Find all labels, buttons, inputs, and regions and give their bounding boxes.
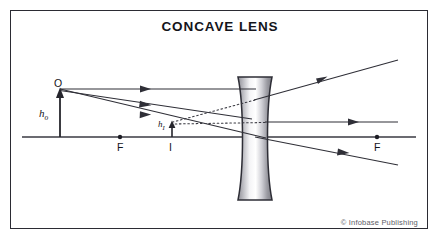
object-height-label: ho [39,108,48,122]
figure-title: CONCAVE LENS [0,19,440,34]
incident-ray-arrowheads [139,86,151,119]
ray-diverged-upper [254,60,398,100]
focal-point-right-label: F [374,142,380,153]
object-arrow [56,88,64,138]
object-point-label: O [54,78,62,89]
focal-point-left-label: F [117,142,123,153]
figure-page: CONCAVE LENS O ho hI F I F © Infobase Pu… [0,0,440,241]
image-height-subscript: I [163,124,165,131]
ray-diagram [0,0,440,241]
refracted-ray-arrowheads [316,76,359,155]
focal-point-right-dot [375,135,379,139]
image-height-label: hI [158,120,165,131]
ray-toward-focus [60,91,252,120]
focal-point-left-dot [118,135,122,139]
copyright-credit: © Infobase Publishing [341,218,418,227]
concave-lens-body [238,77,272,200]
image-arrow [169,121,176,138]
object-height-subscript: o [45,113,49,122]
image-point-label: I [169,142,172,153]
